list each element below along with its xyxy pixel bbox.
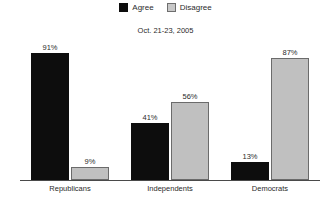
x-axis-line — [20, 180, 320, 181]
legend-label-agree: Agree — [132, 3, 153, 12]
bar-value-label: 41% — [131, 113, 169, 122]
bar-agree-democrats[interactable] — [231, 162, 269, 180]
bar-group: 13%87% — [220, 40, 320, 180]
legend-entry-disagree: Disagree — [167, 3, 212, 12]
bar-value-label: 87% — [271, 48, 309, 57]
legend-label-disagree: Disagree — [180, 3, 212, 12]
category-label-democrats: Democrats — [220, 183, 320, 194]
bar-agree-republicans[interactable] — [31, 53, 69, 180]
bar-group: 91%9% — [20, 40, 120, 180]
agree-swatch-icon — [119, 3, 128, 12]
bar-value-label: 13% — [231, 152, 269, 161]
bar-slot: 9% — [71, 40, 109, 180]
legend-entry-agree: Agree — [119, 3, 153, 12]
bar-value-label: 56% — [171, 92, 209, 101]
bar-slot: 56% — [171, 40, 209, 180]
bar-disagree-republicans[interactable] — [71, 167, 109, 180]
chart-subtitle: Oct. 21-23, 2005 — [0, 26, 331, 35]
disagree-swatch-icon — [167, 3, 176, 12]
bar-slot: 87% — [271, 40, 309, 180]
bar-disagree-democrats[interactable] — [271, 58, 309, 180]
chart-legend: Agree Disagree — [0, 1, 331, 14]
bar-value-label: 9% — [71, 157, 109, 166]
plot-area: 91%9%41%56%13%87% — [20, 40, 320, 180]
category-label-independents: Independents — [120, 183, 220, 194]
bar-group: 41%56% — [120, 40, 220, 180]
bar-value-label: 91% — [31, 43, 69, 52]
x-axis-category-labels: RepublicansIndependentsDemocrats — [20, 183, 320, 197]
bar-disagree-independents[interactable] — [171, 102, 209, 180]
bar-slot: 91% — [31, 40, 69, 180]
category-label-republicans: Republicans — [20, 183, 120, 194]
bar-slot: 41% — [131, 40, 169, 180]
bar-slot: 13% — [231, 40, 269, 180]
bar-agree-independents[interactable] — [131, 123, 169, 180]
